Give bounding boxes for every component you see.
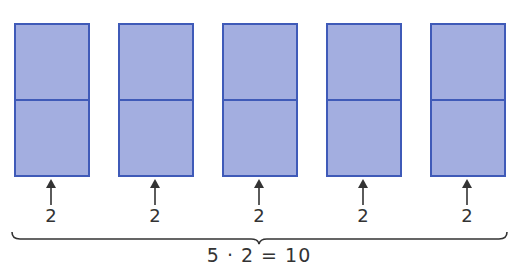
cell-divider — [16, 99, 88, 101]
group-label-3: 2 — [244, 205, 274, 226]
group-label-5: 2 — [452, 205, 482, 226]
group-block-2 — [118, 23, 194, 177]
up-arrow-icon — [45, 179, 57, 205]
cell-divider — [432, 99, 504, 101]
group-label-4: 2 — [348, 205, 378, 226]
up-arrow-icon — [253, 179, 265, 205]
group-block-1 — [14, 23, 90, 177]
up-arrow-icon — [461, 179, 473, 205]
group-block-5 — [430, 23, 506, 177]
group-block-3 — [222, 23, 298, 177]
group-block-4 — [326, 23, 402, 177]
cell-divider — [328, 99, 400, 101]
equation: 5 · 2 = 10 — [0, 244, 518, 266]
cell-divider — [120, 99, 192, 101]
group-label-1: 2 — [36, 205, 66, 226]
up-arrow-icon — [149, 179, 161, 205]
up-arrow-icon — [357, 179, 369, 205]
cell-divider — [224, 99, 296, 101]
group-label-2: 2 — [140, 205, 170, 226]
